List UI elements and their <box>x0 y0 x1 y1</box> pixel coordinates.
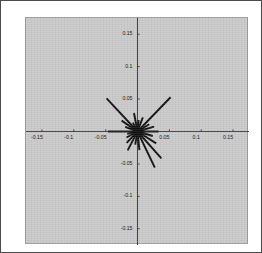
x-tick-label: -0.15 <box>31 134 43 140</box>
y-tick-label: 0.15 <box>115 30 133 36</box>
y-tick-label: -0.15 <box>115 225 133 231</box>
figure-inner-margin: -0.15-0.1-0.050.050.10.15-0.15-0.1-0.050… <box>5 4 259 251</box>
x-tick-label: 0.05 <box>159 134 169 140</box>
x-tick-label: -0.1 <box>64 134 73 140</box>
plot-area <box>25 17 248 244</box>
x-tick-label: 0.1 <box>193 134 200 140</box>
x-tick-label: -0.05 <box>95 134 107 140</box>
y-tick-label: 0.05 <box>115 95 133 101</box>
y-tick-label: 0.1 <box>115 63 133 69</box>
plot-canvas <box>26 18 249 245</box>
data-rays-group <box>107 97 171 167</box>
x-tick-label: 0.15 <box>223 134 233 140</box>
figure-frame: -0.15-0.1-0.050.050.10.15-0.15-0.1-0.050… <box>0 0 262 253</box>
y-tick-label: -0.05 <box>115 160 133 166</box>
y-tick-label: -0.1 <box>115 192 133 198</box>
